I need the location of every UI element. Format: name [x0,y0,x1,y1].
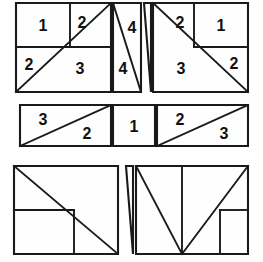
dissection-svg: 122344213232123 [0,0,263,262]
piece-label-2: 2 [78,14,87,31]
bottom-band [14,166,248,254]
piece-label-2: 2 [176,14,185,31]
dissection-figure: 122344213232123 [0,0,263,262]
top-left-piece[interactable]: 1223 [16,3,111,92]
piece-label-3: 3 [177,60,186,77]
middle-right-piece[interactable]: 23 [157,105,248,146]
piece-label-2: 2 [25,56,34,73]
bottom-right-piece[interactable] [136,166,248,254]
piece-label-1: 1 [39,17,48,34]
piece-label-1: 1 [217,17,226,34]
top-right-piece[interactable]: 2132 [153,3,248,92]
middle-left-piece[interactable]: 32 [20,105,111,146]
piece-label-4: 4 [128,19,137,36]
piece-label-3: 3 [76,60,85,77]
middle-band: 32123 [20,105,248,146]
piece-label-2: 2 [83,125,92,142]
piece-label-3: 3 [220,125,229,142]
piece-label-1: 1 [130,118,139,135]
top-middle-left-sliver[interactable]: 44 [113,3,141,92]
piece-label-2: 2 [230,55,239,72]
piece-label-4: 4 [119,60,128,77]
piece-label-3: 3 [39,111,48,128]
middle-center-piece[interactable]: 1 [113,105,155,146]
piece-label-2: 2 [176,111,185,128]
bottom-left-piece[interactable] [14,166,118,254]
top-band: 1223442132 [16,3,248,92]
